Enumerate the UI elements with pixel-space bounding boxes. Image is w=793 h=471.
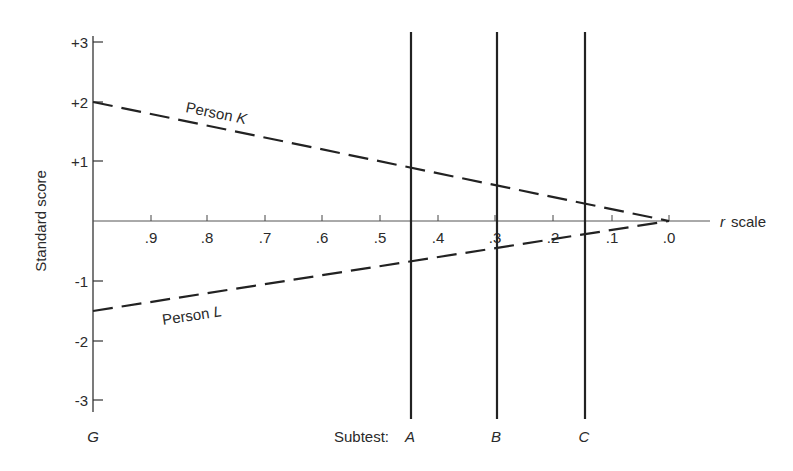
x-tick-label: .1 bbox=[606, 229, 619, 246]
x-axis-title: rscale bbox=[720, 213, 766, 230]
y-tick-label: -1 bbox=[75, 273, 88, 290]
subtest-label-c: C bbox=[579, 428, 590, 445]
x-tick-label: .5 bbox=[374, 229, 387, 246]
subtest-lines bbox=[411, 32, 585, 419]
y-tick-labels: +3 +2 +1 -1 -2 -3 bbox=[71, 34, 88, 409]
x-tick-label: .3 bbox=[489, 229, 502, 246]
x-tick-label: .9 bbox=[145, 229, 158, 246]
y-tick-label: +3 bbox=[71, 34, 88, 51]
x-tick-label: .6 bbox=[316, 229, 329, 246]
subtest-label-b: B bbox=[491, 428, 501, 445]
subtest-prefix-label: Subtest: bbox=[334, 428, 389, 445]
y-tick-label: -2 bbox=[75, 333, 88, 350]
series-person-k bbox=[93, 102, 669, 221]
subtest-label-a: A bbox=[404, 428, 415, 445]
x-tick-label: .8 bbox=[201, 229, 214, 246]
y-tick-label: -3 bbox=[75, 392, 88, 409]
series-label-person-l: Person L bbox=[161, 302, 223, 328]
y-axis-title: Standard score bbox=[32, 170, 49, 272]
y-tick-label: +2 bbox=[71, 94, 88, 111]
x-tick-label: .4 bbox=[432, 229, 445, 246]
chart-canvas: +3 +2 +1 -1 -2 -3 Standard score .9 .8 .… bbox=[0, 0, 793, 471]
y-tick-label: +1 bbox=[71, 153, 88, 170]
x-tick-label: .7 bbox=[259, 229, 272, 246]
x-tick-label: .0 bbox=[663, 229, 676, 246]
origin-label-g: G bbox=[87, 428, 99, 445]
